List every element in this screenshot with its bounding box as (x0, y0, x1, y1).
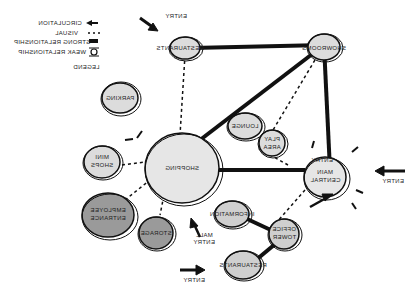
svg-text:STORAGE: STORAGE (140, 230, 171, 236)
node-lounge: LOUNGE (227, 113, 265, 141)
tie-icon (89, 48, 99, 56)
arrow-icon (375, 166, 405, 176)
node-parking: PARKING (101, 82, 141, 116)
svg-text:SHOWROOMS: SHOWROOMS (302, 45, 346, 51)
node-office-tower: OFFICE TOWER (268, 219, 302, 251)
svg-text:RESTAURANTS: RESTAURANTS (219, 262, 267, 268)
svg-text:LOUNGE: LOUNGE (231, 123, 258, 129)
legend-label-visual: VISUAL (54, 30, 78, 36)
svg-text:EMPLOYEE: EMPLOYEE (90, 207, 125, 213)
svg-text:RESTAURANTS: RESTAURANTS (156, 45, 204, 51)
entry-label-hall: ENTRY (311, 157, 333, 163)
legend-title: LEGEND (73, 64, 100, 70)
legend: CIRCULATION VISUAL STRONG RELATIONSHIP W… (14, 20, 100, 70)
svg-text:TOWER: TOWER (272, 234, 296, 240)
arrow-icon (140, 18, 158, 31)
legend-label-strong: STRONG RELATIONSHIP (14, 39, 91, 45)
svg-text:MAIN: MAIN (317, 169, 333, 175)
node-storage: STORAGE (138, 217, 176, 251)
svg-text:SHOPPING: SHOPPING (165, 165, 199, 171)
svg-text:MINI: MINI (95, 154, 109, 160)
svg-text:AREA: AREA (263, 144, 281, 150)
svg-text:PARKING: PARKING (106, 95, 135, 101)
node-play-area: PLAY AREA (258, 130, 288, 158)
svg-text:ENTRANCE: ENTRANCE (90, 215, 125, 221)
visual-relationships (122, 55, 318, 230)
entry-label-right: ENTRY (382, 178, 404, 184)
entry-label-mall-2: ENTRY (193, 239, 215, 245)
arrow-icon (86, 20, 98, 26)
entry-label-bottom: ENTRY (183, 277, 205, 283)
arrow-icon (180, 265, 205, 275)
node-mini-shops: MINI SHOPS (83, 146, 123, 180)
node-restaurants-top: RESTAURANTS (156, 37, 204, 61)
legend-label-circulation: CIRCULATION (38, 20, 82, 26)
node-information: INFORMATION (210, 201, 255, 229)
svg-text:SHOPS: SHOPS (91, 162, 114, 168)
bubble-diagram: RESTAURANTS SHOWROOMS PARKING SHOPPING M… (0, 0, 418, 302)
entry-label-mall-1: MALL (196, 232, 213, 238)
legend-label-weak: WEAK RELATIONSHIP (18, 49, 86, 55)
svg-text:CENTRAL: CENTRAL (310, 177, 340, 183)
entry-label-top: ENTRY (165, 13, 187, 19)
svg-text:PLAY: PLAY (264, 136, 280, 142)
node-shopping: SHOPPING (145, 133, 223, 206)
svg-text:INFORMATION: INFORMATION (210, 211, 255, 217)
svg-text:OFFICE: OFFICE (272, 226, 296, 232)
node-employee-entrance: EMPLOYEE ENTRANCE (82, 193, 138, 240)
